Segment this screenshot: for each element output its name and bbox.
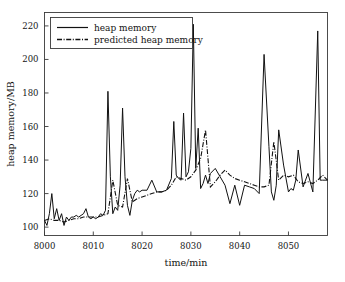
x-tick-label: 8020 <box>131 241 153 251</box>
y-tick-label: 220 <box>22 21 38 31</box>
x-tick-label: 8040 <box>229 241 251 251</box>
y-tick-label: 200 <box>22 54 38 64</box>
legend-label-heap-memory: heap memory <box>94 23 157 33</box>
chart-legend: heap memory predicted heap memory <box>51 18 204 49</box>
y-tick-label: 180 <box>22 88 38 98</box>
y-tick-label: 140 <box>22 155 38 165</box>
x-tick-label: 8000 <box>34 241 56 251</box>
chart-figure: 800080108020803080408050 100120140160180… <box>0 0 345 282</box>
legend-label-predicted-heap-memory: predicted heap memory <box>94 35 204 45</box>
x-tick-label: 8010 <box>82 241 104 251</box>
y-tick-label: 160 <box>22 122 38 132</box>
heap-memory-line-chart: 800080108020803080408050 100120140160180… <box>0 0 345 282</box>
y-axis-title: heap memory/MB <box>5 81 16 167</box>
x-tick-label: 8050 <box>278 241 300 251</box>
y-tick-label: 100 <box>22 222 38 232</box>
x-axis-title: time/min <box>165 257 208 268</box>
x-tick-label: 8030 <box>180 241 202 251</box>
y-tick-label: 120 <box>22 189 38 199</box>
